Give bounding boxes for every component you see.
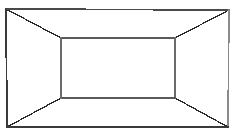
perspective-box-figure: One-point perspective box interior Line …: [0, 0, 235, 137]
outer-right-edge: [228, 10, 229, 127]
drawing-canvas: One-point perspective box interior Line …: [0, 0, 235, 137]
back-wall-face: [61, 38, 175, 98]
outer-left-edge: [6, 9, 7, 127]
outer-top-edge: [6, 9, 229, 10]
